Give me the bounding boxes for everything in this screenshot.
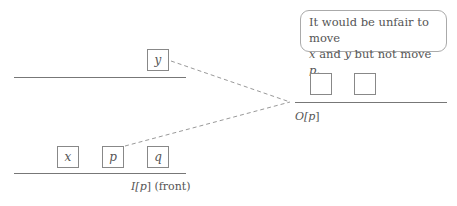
- label-o: O[: [295, 110, 308, 123]
- queue-box-x: x: [57, 146, 79, 168]
- output-box-1: [310, 73, 332, 95]
- label-bracket: ]: [315, 110, 319, 123]
- text: but not move: [351, 47, 431, 61]
- callout-line-1: It would be unfair to move: [309, 14, 438, 46]
- output-queue-label: O[p]: [295, 110, 320, 123]
- text: and: [316, 47, 345, 61]
- input-queue-label: I[p] (front): [131, 180, 191, 193]
- label-front: (front): [154, 180, 190, 193]
- queue-box-p: p: [102, 146, 124, 168]
- label-i: I[: [131, 180, 140, 193]
- label-p: p: [140, 180, 147, 193]
- dashed-connector-y: [171, 61, 290, 102]
- output-box-2: [354, 73, 376, 95]
- input-queue-line: [14, 173, 186, 174]
- output-queue-line: [295, 102, 447, 103]
- queue-box-q: q: [147, 146, 169, 168]
- dashed-connector-p: [125, 102, 290, 146]
- callout-bubble: It would be unfair to move x and y but n…: [300, 10, 447, 52]
- label-bracket: ]: [147, 180, 151, 193]
- top-queue-line: [14, 77, 186, 78]
- queue-box-y: y: [147, 49, 169, 71]
